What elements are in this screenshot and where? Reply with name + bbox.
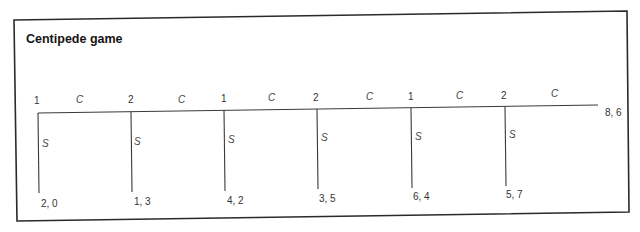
diagram-title: Centipede game: [26, 32, 123, 46]
player-label: 2: [501, 90, 507, 101]
continue-path-line: [38, 105, 598, 113]
stop-payoff: 2, 0: [41, 198, 58, 209]
continue-move-label: C: [551, 88, 559, 99]
stop-branch-line: [131, 112, 132, 192]
stop-move-label: S: [415, 131, 422, 142]
centipede-diagram: Centipede game 1 C S 2, 0 2 C S 1, 3 1 C…: [0, 0, 640, 232]
player-label: 2: [313, 92, 319, 103]
stop-move-label: S: [134, 136, 141, 147]
player-label: 1: [34, 95, 40, 106]
stop-payoff: 4, 2: [227, 195, 244, 206]
stop-move-label: S: [42, 138, 49, 149]
continue-move-label: C: [76, 94, 84, 105]
stop-branch-line: [38, 113, 39, 193]
stop-branch-line: [411, 108, 412, 188]
player-label: 2: [128, 94, 134, 105]
continue-move-label: C: [456, 90, 464, 101]
stop-payoff: 6, 4: [413, 191, 430, 202]
player-label: 1: [408, 91, 414, 102]
stop-move-label: S: [321, 132, 328, 143]
stop-branch-line: [224, 110, 225, 191]
continue-move-label: C: [178, 94, 186, 105]
continue-move-label: C: [268, 92, 276, 103]
decision-node-3: 1 C S 4, 2: [221, 92, 276, 206]
stop-payoff: 5, 7: [506, 189, 523, 200]
stop-move-label: S: [228, 134, 235, 145]
stop-move-label: S: [509, 129, 516, 140]
stop-branch-line: [505, 107, 506, 186]
terminal-payoff: 8, 6: [605, 107, 622, 118]
stop-payoff: 1, 3: [134, 196, 151, 207]
continue-move-label: C: [366, 91, 374, 102]
stop-branch-line: [317, 109, 318, 189]
player-label: 1: [221, 93, 227, 104]
stop-payoff: 3, 5: [319, 193, 336, 204]
decision-node-1: 1 C S 2, 0: [34, 94, 84, 209]
decision-node-6: 2 C S 5, 7: [501, 88, 559, 200]
